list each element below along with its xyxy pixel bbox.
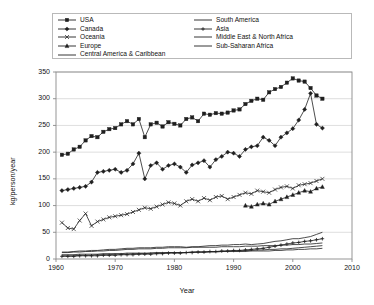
series-canada bbox=[60, 91, 325, 192]
plot-area bbox=[0, 0, 374, 305]
chart-figure: USACanadaOceaniaEuropeCentral America & … bbox=[0, 0, 374, 305]
series-europe bbox=[243, 185, 324, 209]
series-usa bbox=[60, 77, 324, 157]
series-oceania bbox=[60, 177, 324, 231]
plot-frame bbox=[56, 72, 352, 259]
